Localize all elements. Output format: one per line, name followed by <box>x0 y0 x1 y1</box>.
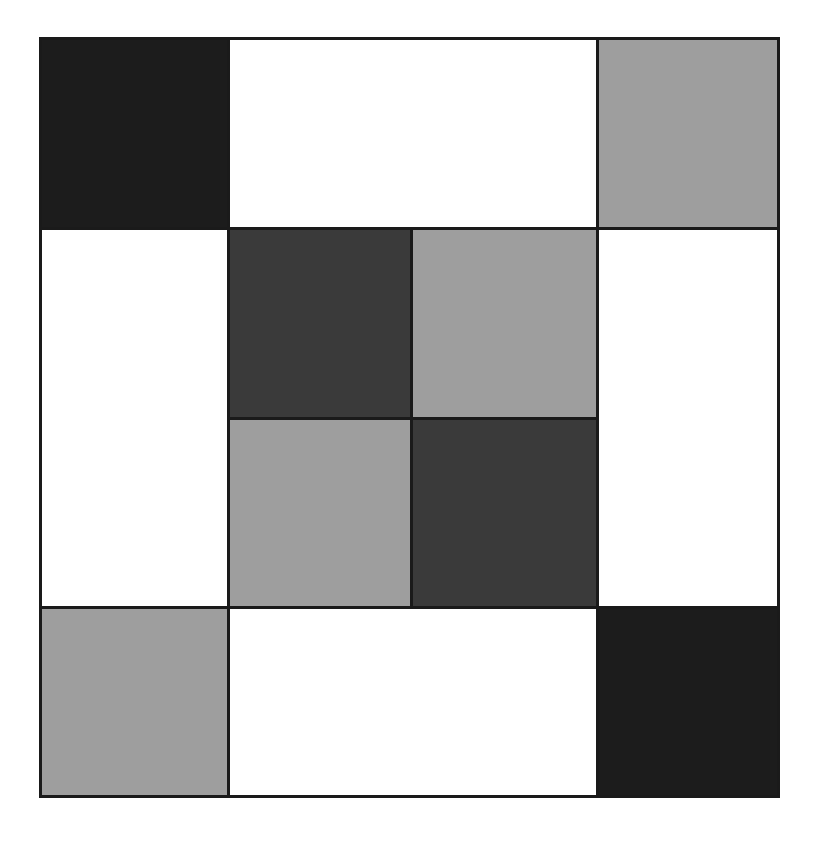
cell-center-top-left <box>228 228 411 418</box>
grid-line-horizontal <box>42 227 777 230</box>
cell-center-bottom-right <box>411 418 597 607</box>
cell-bottom-right-corner <box>597 607 777 795</box>
cell-top-left-corner <box>42 40 228 228</box>
cell-right-middle-bar <box>597 228 777 607</box>
cell-top-right-corner <box>597 40 777 228</box>
cell-bottom-left-corner <box>42 607 228 795</box>
cell-center-bottom-left <box>228 418 411 607</box>
cell-left-middle-bar <box>42 228 228 607</box>
quilt-block-board <box>39 37 780 798</box>
cell-center-top-right <box>411 228 597 418</box>
grid-line-horizontal <box>228 417 597 420</box>
cell-top-middle-bar <box>228 40 597 228</box>
cell-bottom-middle-bar <box>228 607 597 795</box>
grid-line-horizontal <box>42 606 777 609</box>
